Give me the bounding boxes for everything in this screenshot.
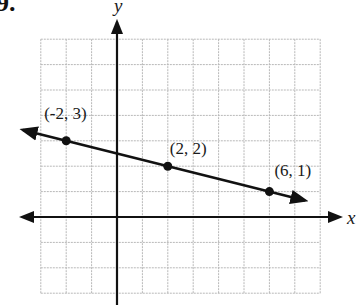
data-point bbox=[62, 136, 71, 145]
x-axis-label: x bbox=[346, 207, 356, 228]
data-point bbox=[163, 162, 172, 171]
point-label: (-2, 3) bbox=[44, 104, 86, 123]
data-points: (-2, 3)(2, 2)(6, 1) bbox=[44, 104, 311, 196]
point-label: (6, 1) bbox=[274, 161, 311, 180]
y-axis-label: y bbox=[112, 0, 123, 16]
point-label: (2, 2) bbox=[170, 139, 207, 158]
coordinate-plane: y x (-2, 3)(2, 2)(6, 1) bbox=[0, 0, 357, 307]
data-point bbox=[265, 187, 274, 196]
